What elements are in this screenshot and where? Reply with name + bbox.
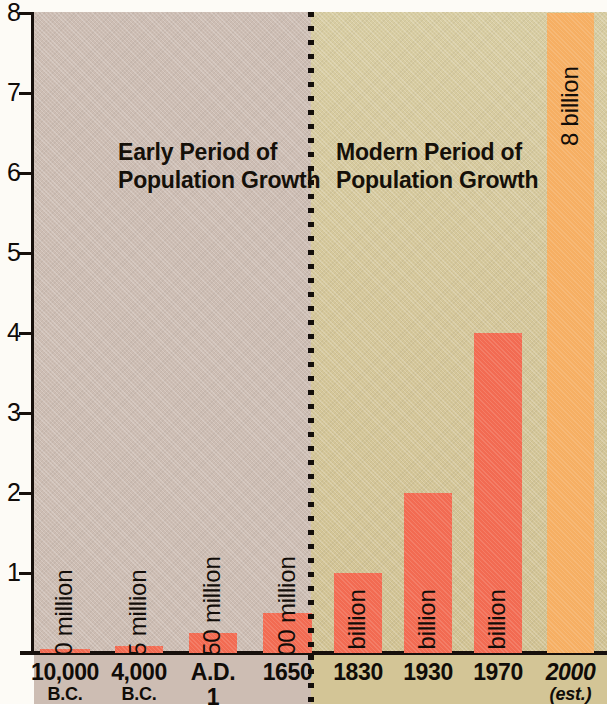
early-period-panel [34,12,311,651]
category-label-line2: (est.) [511,684,607,705]
y-axis-tick-label: 6 [0,160,21,185]
y-axis-tick-label: 1 [0,560,21,585]
category-label-line2: 1 [153,684,273,709]
x-axis-category-label: 2000(est.) [511,660,607,705]
category-label-line1: 2000 [511,660,607,684]
bar-value-label: 8 billion [558,66,582,146]
y-axis-tick-label: 3 [0,400,21,425]
y-axis-tick-label: 5 [0,240,21,265]
period-divider-dotted-line [308,12,314,655]
bar-value-label: 500 million [275,556,299,669]
early-period-title: Early Period of Population Growth [118,138,320,194]
panel-texture [34,12,311,651]
y-axis-tick-label: 2 [0,480,21,505]
y-axis-tick-label: 4 [0,320,21,345]
y-axis-tick-label: 8 [0,0,21,25]
y-axis-tick-label: 7 [0,80,21,105]
modern-period-title: Modern Period of Population Growth [336,138,538,194]
bar-value-label: 250 million [200,556,224,669]
